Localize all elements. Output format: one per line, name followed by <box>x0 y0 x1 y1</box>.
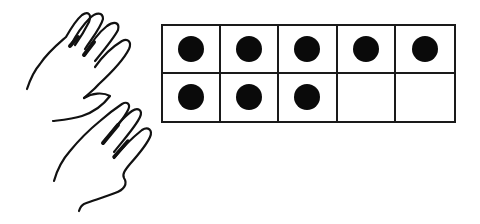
counter-dot <box>236 84 262 110</box>
counter-dot <box>353 36 379 62</box>
counter-dot <box>294 84 320 110</box>
ten-frame-cell <box>163 26 221 74</box>
counter-dot <box>236 36 262 62</box>
ten-frame-cell <box>396 26 454 74</box>
ten-frame-cell <box>338 26 396 74</box>
ten-frame-cell <box>221 26 279 74</box>
counter-dot <box>412 36 438 62</box>
ten-frame-cell <box>279 74 337 122</box>
counter-dot <box>294 36 320 62</box>
ten-frame-cell-empty <box>338 74 396 122</box>
ten-frame-cell <box>163 74 221 122</box>
ten-frame-cell-empty <box>396 74 454 122</box>
counter-dot <box>178 84 204 110</box>
ten-frame-cell <box>279 26 337 74</box>
ten-frame <box>161 24 456 123</box>
hands-illustration <box>0 0 170 224</box>
ten-frame-cell <box>221 74 279 122</box>
upper-hand-icon <box>27 13 130 121</box>
counter-dot <box>178 36 204 62</box>
